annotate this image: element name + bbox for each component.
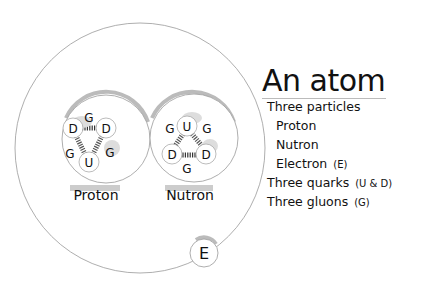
nutron-quark-u: U [183,120,192,134]
proton-quark-d1: D [68,122,77,136]
nutron-label: Nutron [166,187,214,203]
nutron-gluon-left: G [165,122,174,136]
list-gluons-note: (G) [354,197,370,208]
nutron-gluon-bottom: G [182,162,191,176]
list-electron-label: Electron [276,156,327,171]
nutron-gluon-right: G [202,122,211,136]
proton [62,92,150,183]
nutron [150,92,238,182]
list-gluons: Three gluons(G) [267,194,370,211]
electron-label: E [199,244,209,263]
list-nutron-label: Nutron [276,137,319,152]
list-quarks-note: (U & D) [355,178,392,189]
list-electron: Electron(E) [276,156,347,173]
list-nutron: Nutron [276,137,319,153]
list-electron-note: (E) [333,159,347,170]
proton-gluon-top: G [84,111,93,125]
proton-gluon-right: G [105,146,114,160]
list-gluons-label: Three gluons [267,194,348,209]
list-proton: Proton [276,118,316,134]
atom-diagram: G D D G U G G U G D D G Proton Nutron E [0,0,432,286]
proton-label: Proton [73,187,118,203]
proton-gluon-left: G [65,147,74,161]
list-quarks: Three quarks(U & D) [267,175,392,192]
nutron-quark-d2: D [201,148,210,162]
proton-quark-u: U [85,156,94,170]
list-proton-label: Proton [276,118,316,133]
nutron-quark-d1: D [167,148,176,162]
list-quarks-label: Three quarks [267,175,349,190]
list-particles-heading: Three particles [267,99,360,115]
proton-quark-d2: D [101,122,110,136]
diagram-title: An atom [262,64,385,98]
